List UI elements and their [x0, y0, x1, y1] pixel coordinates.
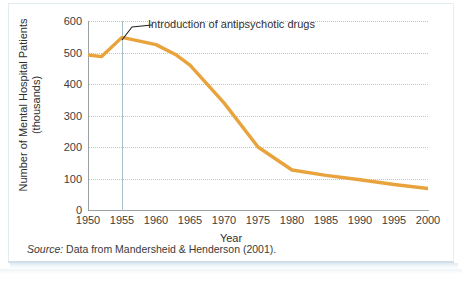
card-shadow-outer [0, 269, 462, 274]
y-tick-label-300: 300 [64, 110, 82, 122]
source-caption: Source: Data from Mandersheid & Henderso… [27, 243, 276, 255]
card-border-right [453, 3, 454, 261]
x-tick-label-2000: 2000 [416, 214, 440, 226]
y-tick-label-100: 100 [64, 173, 82, 185]
x-tick-label-1980: 1980 [280, 214, 304, 226]
data-series-line [88, 37, 428, 188]
source-text: Data from Mandersheid & Henderson (2001)… [63, 243, 276, 255]
y-axis-title-line2: (thousands) [30, 12, 43, 198]
y-axis-tick-labels: 0100200300400500600 [52, 21, 82, 211]
card-border-top [8, 3, 454, 4]
x-tick-label-1970: 1970 [212, 214, 236, 226]
x-tick-label-1965: 1965 [178, 214, 202, 226]
chart-plot-area [88, 21, 428, 210]
y-tick-label-200: 200 [64, 141, 82, 153]
figure-container: 0100200300400500600 Number of Mental Hos… [0, 0, 462, 290]
annotation-label: Introduction of antipsychotic drugs [148, 18, 315, 30]
x-tick-label-1990: 1990 [348, 214, 372, 226]
x-axis-line [88, 210, 429, 211]
y-tick-label-500: 500 [64, 47, 82, 59]
x-tick-label-1950: 1950 [76, 214, 100, 226]
y-tick-label-600: 600 [64, 15, 82, 27]
x-tick-label-1960: 1960 [144, 214, 168, 226]
y-axis-title: Number of Mental Hospital Patients (thou… [17, 12, 43, 198]
x-tick-label-1955: 1955 [110, 214, 134, 226]
x-tick-label-1995: 1995 [382, 214, 406, 226]
source-prefix: Source: [27, 243, 63, 255]
y-axis-title-line1: Number of Mental Hospital Patients [17, 12, 30, 198]
x-tick-label-1985: 1985 [314, 214, 338, 226]
card-border-left [8, 3, 9, 261]
y-tick-label-400: 400 [64, 78, 82, 90]
x-tick-label-1975: 1975 [246, 214, 270, 226]
